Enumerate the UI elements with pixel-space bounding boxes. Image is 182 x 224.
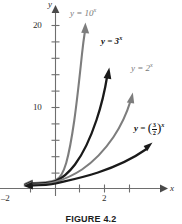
y-axis-label: y — [48, 0, 52, 9]
y-tick-label-20: 20 — [33, 20, 42, 30]
curve-label-3-over-2-pow-x-exponent: x — [161, 121, 164, 128]
curve-label-3-over-2-pow-x: y = (32)x — [134, 122, 164, 136]
curve-label-3-pow-x-text: y = 3 — [101, 36, 119, 46]
curve-3-pow-x — [29, 76, 107, 184]
curve-10-pow-x-arrowhead-top — [81, 23, 89, 34]
curve-label-2-pow-x-exponent: x — [150, 61, 153, 68]
y-axis-group — [52, 5, 60, 196]
y-tick-label-10: 10 — [33, 102, 42, 112]
curve-label-10-pow-x: y = 10x — [70, 9, 96, 18]
x-tick-label-2: 2 — [102, 193, 106, 203]
curve-label-10-pow-x-text: y = 10 — [70, 8, 94, 18]
curve-3-pow-x-group — [24, 68, 112, 189]
curve-3-pow-x-arrowhead-top — [104, 68, 112, 80]
curve-label-3-pow-x-exponent: x — [119, 34, 122, 41]
plot-canvas — [0, 0, 182, 224]
curve-label-10-pow-x-exponent: x — [94, 6, 97, 13]
fraction-denominator: 2 — [152, 130, 156, 136]
x-axis-arrowhead — [160, 185, 168, 193]
curve-2-pow-x — [29, 101, 131, 185]
figure-container: y x 20 10 –2 2 y = 10x y = 3x y = 2x y =… — [0, 0, 182, 224]
curve-label-3-over-2-pow-x-text: y = — [134, 123, 148, 133]
curve-label-2-pow-x: y = 2x — [131, 64, 153, 73]
x-tick-label-neg2: –2 — [1, 193, 10, 203]
right-paren: ) — [157, 120, 161, 135]
curve-3-over-2-pow-x — [29, 149, 147, 186]
fraction-3-over-2: 32 — [152, 122, 156, 136]
fraction-numerator: 3 — [152, 122, 156, 128]
figure-caption: FIGURE 4.2 — [0, 214, 182, 224]
y-axis-arrowhead — [52, 5, 60, 13]
curve-label-2-pow-x-text: y = 2 — [131, 63, 150, 73]
curve-2-pow-x-arrowhead-top — [127, 93, 134, 104]
curve-label-3-pow-x: y = 3x — [101, 37, 122, 46]
x-axis-label: x — [170, 183, 174, 193]
